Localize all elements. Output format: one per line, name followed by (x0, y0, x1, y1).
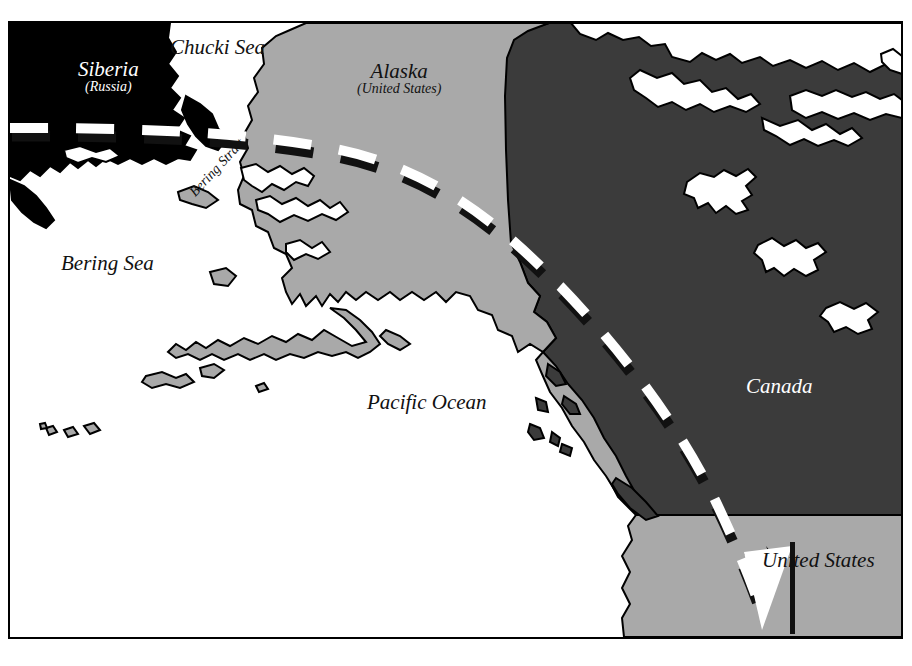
aleutian-island-1 (142, 372, 194, 388)
map-figure: Siberia (Russia) Chucki Sea Alaska (Unit… (0, 0, 912, 666)
map-canvas (0, 0, 912, 666)
aleutian-island-6 (40, 423, 47, 429)
canada-lake-2 (754, 238, 826, 276)
